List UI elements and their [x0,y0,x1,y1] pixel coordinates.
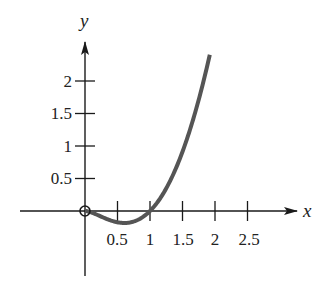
function-curve [85,55,210,223]
y-tick-label: 1.5 [51,104,72,123]
y-tick-label: 1 [64,137,73,156]
x-tick-label: 0.5 [106,230,127,249]
x-axis-label: x [302,200,312,221]
y-tick-label: 2 [64,72,73,91]
x-tick-label: 2.5 [238,230,259,249]
x-tick-label: 2 [211,230,220,249]
x-tick-label: 1 [146,230,155,249]
chart: 0.5 1 1.5 2 2.5 0.5 1 1.5 2 x y [0,0,328,294]
x-tick-label: 1.5 [172,230,193,249]
y-axis-label: y [78,10,89,31]
y-tick-label: 0.5 [51,169,72,188]
